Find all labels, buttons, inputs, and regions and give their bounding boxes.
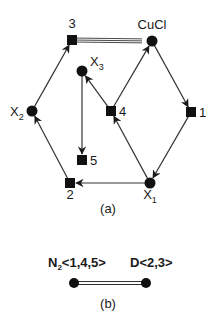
edge-4-CuCl (114, 46, 149, 107)
node-5 (77, 155, 87, 165)
edge-1-X1 (153, 116, 188, 177)
label-cucl: CuCl (138, 17, 167, 32)
caption-a: (a) (100, 201, 116, 216)
label-4: 4 (119, 104, 126, 119)
edge-3-CuCl (77, 38, 142, 39)
edge-3-CuCl (77, 42, 142, 43)
edge-CuCl-1 (154, 45, 188, 106)
label-1: 1 (199, 105, 206, 120)
label-x2: X2 (10, 104, 24, 122)
node-4 (106, 106, 116, 116)
node-x3 (77, 66, 88, 77)
n2-label: N2<1,4,5> (48, 255, 106, 272)
diagram-b: N2<1,4,5> D<2,3> (b) (48, 255, 173, 311)
caption-b: (b) (100, 296, 116, 311)
edge-3-CuCl (77, 40, 142, 41)
reaction-network-diagram: 3CuClX3X24152X1 (a) N2<1,4,5> D<2,3> (b) (0, 0, 217, 325)
n2-node (69, 278, 79, 288)
label-2: 2 (66, 187, 73, 202)
edge-2-X2 (35, 116, 68, 178)
node-x2 (27, 106, 38, 117)
label-5: 5 (90, 153, 97, 168)
node-3 (67, 35, 77, 45)
edge-X2-3 (34, 45, 69, 106)
node-1 (186, 107, 196, 117)
label-x3: X3 (90, 54, 104, 72)
d-node (141, 278, 151, 288)
edge-4-X3 (86, 76, 109, 107)
edge-X1-4 (114, 116, 148, 178)
nodes (27, 35, 197, 189)
label-3: 3 (68, 16, 75, 31)
label-x1: X1 (143, 187, 157, 205)
node-cucl (147, 36, 158, 47)
d-label: D<2,3> (130, 255, 173, 270)
